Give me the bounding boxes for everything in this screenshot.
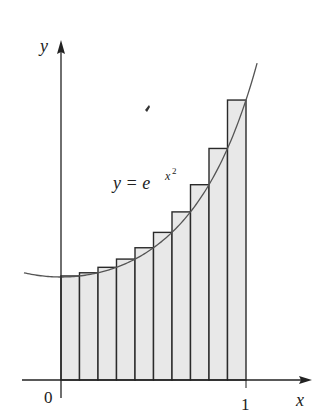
- riemann-bar: [191, 185, 210, 380]
- y-axis-arrow-icon: [57, 40, 65, 54]
- equation-exponent: x: [164, 169, 171, 183]
- riemann-bar: [80, 273, 99, 380]
- riemann-bar: [98, 267, 117, 380]
- riemann-bar: [154, 232, 173, 380]
- riemann-bar: [135, 248, 154, 380]
- riemann-bar: [209, 148, 228, 380]
- ink-speck: [145, 105, 150, 112]
- riemann-sum-figure: y x 0 1 y = e x 2: [0, 0, 325, 413]
- riemann-bar: [172, 212, 191, 380]
- x-one-label: 1: [241, 395, 250, 413]
- origin-label: 0: [44, 388, 53, 407]
- curve-equation-label: y = e x 2: [111, 166, 177, 193]
- svg-text:y = e: y = e: [111, 173, 150, 193]
- x-axis-label: x: [295, 390, 304, 410]
- riemann-rectangles: [61, 100, 246, 380]
- y-axis-label: y: [38, 36, 48, 56]
- riemann-bar: [117, 259, 136, 380]
- equation-exponent-power: 2: [172, 166, 177, 176]
- riemann-bar: [61, 276, 80, 380]
- equation-base: y = e: [111, 173, 150, 193]
